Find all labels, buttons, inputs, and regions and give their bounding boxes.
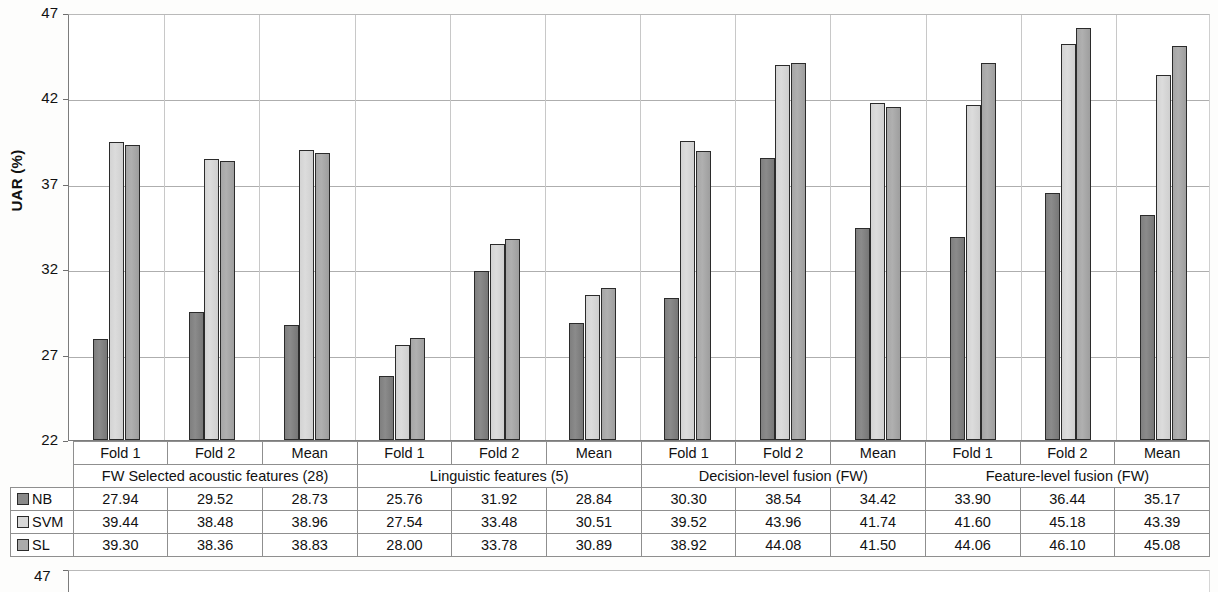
- y-tick-label-27: 27: [24, 346, 58, 363]
- table-cell-sl-8: 41.50: [831, 534, 926, 557]
- table-cell-nb-7: 38.54: [736, 488, 831, 511]
- table-cell-sl-2: 38.83: [262, 534, 357, 557]
- table-cell-nb-4: 31.92: [452, 488, 547, 511]
- y-tickmark-32: [63, 270, 68, 271]
- table-cell-svm-9: 41.60: [925, 511, 1020, 534]
- table-header-fold-10: Fold 2: [1020, 442, 1115, 465]
- legend-swatch-icon-svm: [17, 516, 29, 528]
- table-header-fold-6: Fold 1: [641, 442, 736, 465]
- table-cell-nb-6: 30.30: [641, 488, 736, 511]
- table-row-group-headers: FW Selected acoustic features (28)Lingui…: [11, 465, 1210, 488]
- table-cell-sl-4: 33.78: [452, 534, 547, 557]
- table-cell-nb-0: 27.94: [73, 488, 168, 511]
- bar-sl-9: [981, 63, 996, 440]
- y-axis-title: UAR (%): [8, 121, 25, 241]
- table-header-fold-4: Fold 2: [452, 442, 547, 465]
- table-cell-sl-9: 44.06: [925, 534, 1020, 557]
- table-cell-svm-10: 45.18: [1020, 511, 1115, 534]
- bar-nb-9: [950, 237, 965, 440]
- table-header-group-2: Decision-level fusion (FW): [641, 465, 925, 488]
- bar-nb-5: [569, 323, 584, 440]
- gridline-37: [69, 186, 1209, 187]
- bar-sl-1: [220, 161, 235, 440]
- bar-sl-8: [886, 107, 901, 440]
- bar-svm-2: [299, 150, 314, 440]
- bar-svm-7: [775, 65, 790, 440]
- gridline-32: [69, 271, 1209, 272]
- bar-sl-5: [601, 288, 616, 440]
- table-cell-sl-7: 44.08: [736, 534, 831, 557]
- table-row: SVM39.4438.4838.9627.5433.4830.5139.5243…: [11, 511, 1210, 534]
- bar-sl-4: [505, 239, 520, 440]
- table-cell-svm-7: 43.96: [736, 511, 831, 534]
- bar-svm-10: [1061, 44, 1076, 440]
- bar-svm-5: [585, 295, 600, 440]
- table-cell-svm-3: 27.54: [357, 511, 452, 534]
- bar-sl-7: [791, 63, 806, 440]
- table-header-fold-5: Mean: [547, 442, 642, 465]
- legend-label-nb: NB: [32, 491, 52, 507]
- bar-nb-2: [284, 325, 299, 440]
- table-header-fold-9: Fold 1: [925, 442, 1020, 465]
- category-separator-8: [830, 15, 831, 440]
- legend-cell-nb: NB: [11, 488, 74, 511]
- bar-svm-0: [109, 142, 124, 440]
- table-cell-nb-5: 28.84: [547, 488, 642, 511]
- bar-svm-9: [966, 105, 981, 440]
- table-cell-nb-3: 25.76: [357, 488, 452, 511]
- table-cell-sl-6: 38.92: [641, 534, 736, 557]
- y-tick-label-42: 42: [24, 89, 58, 106]
- table-header-fold-3: Fold 1: [357, 442, 452, 465]
- category-separator-7: [735, 15, 736, 440]
- table-row-fold-headers: Fold 1Fold 2MeanFold 1Fold 2MeanFold 1Fo…: [11, 442, 1210, 465]
- bar-svm-1: [204, 159, 219, 440]
- bar-sl-6: [696, 151, 711, 440]
- table-cell-svm-8: 41.74: [831, 511, 926, 534]
- bar-nb-8: [855, 228, 870, 440]
- table-header-group-0: FW Selected acoustic features (28): [73, 465, 357, 488]
- table-corner-cell: [11, 442, 74, 465]
- table-cell-nb-11: 35.17: [1115, 488, 1210, 511]
- table-cell-nb-10: 36.44: [1020, 488, 1115, 511]
- category-separator-1: [164, 15, 165, 440]
- bar-sl-2: [315, 153, 330, 440]
- bar-sl-11: [1172, 46, 1187, 440]
- table-cell-sl-5: 30.89: [547, 534, 642, 557]
- bar-sl-3: [410, 338, 425, 440]
- table-header-group-3: Feature-level fusion (FW): [925, 465, 1209, 488]
- y-tick-label-47: 47: [24, 4, 58, 21]
- table-cell-svm-4: 33.48: [452, 511, 547, 534]
- figure-bar-chart-with-data-table: UAR (%) 474237322722 Fold 1Fold 2MeanFol…: [0, 0, 1218, 592]
- bar-sl-0: [125, 145, 140, 440]
- table-header-fold-11: Mean: [1115, 442, 1210, 465]
- table-header-fold-2: Mean: [262, 442, 357, 465]
- table-cell-svm-1: 38.48: [168, 511, 263, 534]
- legend-label-svm: SVM: [32, 514, 63, 530]
- gridline-27: [69, 357, 1209, 358]
- bar-nb-3: [379, 376, 394, 440]
- bar-nb-7: [760, 158, 775, 441]
- y-tickmark-37: [63, 185, 68, 186]
- gridline-42: [69, 100, 1209, 101]
- table-cell-sl-11: 45.08: [1115, 534, 1210, 557]
- bar-svm-11: [1156, 75, 1171, 440]
- y-tickmark-27: [63, 356, 68, 357]
- plot-area: [68, 14, 1210, 441]
- category-separator-6: [640, 15, 641, 440]
- table-header-group-1: Linguistic features (5): [357, 465, 641, 488]
- bar-svm-6: [680, 141, 695, 440]
- category-separator-11: [1116, 15, 1117, 440]
- category-separator-3: [355, 15, 356, 440]
- bar-nb-6: [664, 298, 679, 440]
- table-cell-svm-6: 39.52: [641, 511, 736, 534]
- table-cell-nb-9: 33.90: [925, 488, 1020, 511]
- table-header-fold-0: Fold 1: [73, 442, 168, 465]
- table-cell-svm-2: 38.96: [262, 511, 357, 534]
- table-row: SL39.3038.3638.8328.0033.7830.8938.9244.…: [11, 534, 1210, 557]
- bar-nb-4: [474, 271, 489, 440]
- table-cell-sl-3: 28.00: [357, 534, 452, 557]
- bar-svm-4: [490, 244, 505, 440]
- bar-svm-8: [870, 103, 885, 440]
- table-header-fold-7: Fold 2: [736, 442, 831, 465]
- y-tick-label-32: 32: [24, 260, 58, 277]
